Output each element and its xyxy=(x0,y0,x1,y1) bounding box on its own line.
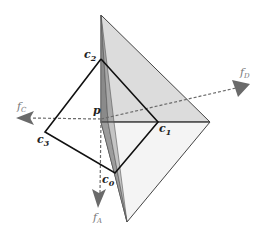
fa-arrowhead-icon xyxy=(92,189,106,208)
label-fd: fD xyxy=(239,66,250,80)
fa-vector-line xyxy=(100,120,101,193)
label-c0: c0 xyxy=(102,173,115,188)
fc-vector-line xyxy=(30,118,101,119)
label-c3: c3 xyxy=(37,133,50,148)
label-fa: fA xyxy=(92,211,102,225)
label-c2: c2 xyxy=(84,48,97,63)
tetrahedron-diagram: c2 c1 c3 c0 p fC fD fA xyxy=(0,0,263,233)
label-p: p xyxy=(93,104,101,117)
label-fc: fC xyxy=(16,100,27,114)
